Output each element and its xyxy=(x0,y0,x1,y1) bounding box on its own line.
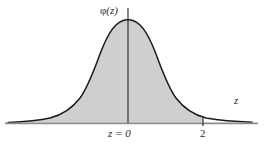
density-axis-label: φ(z) xyxy=(100,5,118,16)
shaded-area-to-z2 xyxy=(5,20,203,123)
x-axis-label: z xyxy=(234,95,238,106)
x-tick-label-two: 2 xyxy=(200,128,206,139)
distribution-plot xyxy=(0,0,276,150)
normal-distribution-figure: φ(z) z = 0 2 z xyxy=(0,0,276,150)
x-tick-label-zero: z = 0 xyxy=(108,128,131,139)
density-argument: (z) xyxy=(106,4,118,16)
